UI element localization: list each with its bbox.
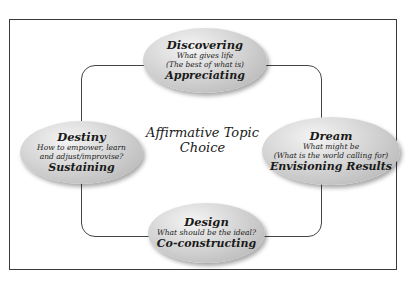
node-title: Destiny: [57, 131, 106, 143]
node-question: What gives life: [177, 51, 234, 60]
center-topic-line2: Choice: [130, 140, 275, 155]
node-destiny: Destiny How to empower, learn and adjust…: [20, 121, 143, 184]
node-design: Design What should be the ideal? Co-cons…: [148, 203, 265, 263]
node-question-detail: (The best of what is): [166, 60, 244, 69]
node-question: What might be: [303, 142, 359, 151]
node-title: Dream: [310, 130, 353, 142]
node-dream: Dream What might be (What is the world c…: [262, 117, 400, 185]
center-topic-line1: Affirmative Topic: [130, 125, 275, 140]
node-label: Co-constructing: [157, 237, 256, 250]
node-label: Envisioning Results: [270, 160, 392, 173]
node-title: Discovering: [167, 39, 243, 51]
node-question: How to empower, learn: [37, 143, 126, 152]
node-title: Design: [184, 216, 229, 228]
node-label: Sustaining: [48, 161, 114, 174]
node-question-detail: (What is the world calling for): [274, 151, 388, 160]
node-label: Appreciating: [165, 69, 245, 82]
node-question: What should be the ideal?: [157, 228, 256, 237]
center-topic: Affirmative Topic Choice: [130, 125, 275, 155]
node-discovering: Discovering What gives life (The best of…: [143, 28, 267, 93]
node-question-detail: and adjust/improvise?: [40, 152, 124, 161]
